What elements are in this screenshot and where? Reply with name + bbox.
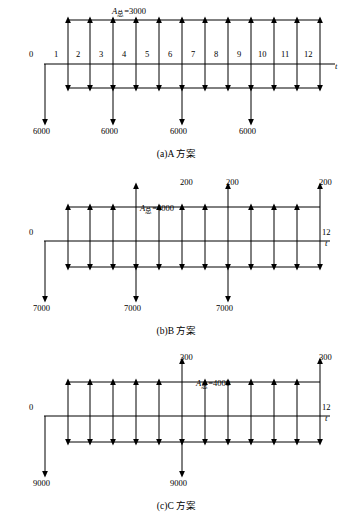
panel-a-tick-7: 7 <box>191 50 195 59</box>
panel-b-tick-0: 0 <box>29 228 33 237</box>
panel-a-tick-8: 8 <box>214 50 218 59</box>
panel-c-small-inflow-1: 300 <box>319 352 332 362</box>
panel-c-outflow-1: 9000 <box>170 478 187 488</box>
panel-a-tick-1: 1 <box>54 50 58 59</box>
panel-a-tick-9: 9 <box>237 50 241 59</box>
panel-a-tick-12: 12 <box>304 50 313 59</box>
panel-a-tick-5: 5 <box>145 50 149 59</box>
cash-flow-diagram-page: A总=3000 0 1 2 3 4 5 6 7 8 9 10 11 12 t 6… <box>0 0 353 523</box>
panel-a-outflow-2: 6000 <box>170 126 187 136</box>
panel-a-caption: (a)A 方案 <box>0 146 353 160</box>
panel-b-outflow-2: 7000 <box>216 303 233 313</box>
panel-b: A总=4000 200 200 200 0 12 t 7000 7000 700… <box>0 175 353 350</box>
panel-c-caption: (c)C 方案 <box>0 498 353 512</box>
panel-b-small-inflow-0: 200 <box>180 177 193 187</box>
panel-a-total-label: A总=3000 <box>112 6 146 18</box>
panel-a-tick-4: 4 <box>122 50 126 59</box>
panel-a-tick-6: 6 <box>168 50 172 59</box>
panel-c-axis-label: t <box>325 414 327 423</box>
panel-a-outflow-0: 6000 <box>33 126 50 136</box>
panel-a-outflow-3: 6000 <box>239 126 256 136</box>
panel-b-tick-12: 12 <box>322 228 331 237</box>
panel-a-tick-10: 10 <box>258 50 267 59</box>
panel-b-small-inflow-1: 200 <box>226 177 239 187</box>
panel-b-outflow-0: 7000 <box>33 303 50 313</box>
panel-c-total-label: A总=4000 <box>196 378 230 390</box>
panel-a-tick-0: 0 <box>29 50 33 59</box>
panel-c-tick-0: 0 <box>29 403 33 412</box>
panel-c-tick-12: 12 <box>322 403 331 412</box>
panel-b-outflow-1: 7000 <box>124 303 141 313</box>
panel-b-small-inflow-2: 200 <box>319 177 332 187</box>
panel-c-outflow-0: 9000 <box>33 478 50 488</box>
panel-a-tick-3: 3 <box>99 50 103 59</box>
panel-c-small-inflow-0: 300 <box>180 352 193 362</box>
panel-b-caption: (b)B 方案 <box>0 323 353 337</box>
panel-a-tick-11: 11 <box>281 50 289 59</box>
panel-b-total-label: A总=4000 <box>140 203 174 215</box>
panel-a-tick-2: 2 <box>76 50 80 59</box>
panel-a-outflow-1: 6000 <box>101 126 118 136</box>
panel-b-axis-label: t <box>325 239 327 248</box>
panel-c: A总=4000 300 300 0 12 t 9000 9000 (c)C 方案 <box>0 350 353 523</box>
panel-a-axis-label: t <box>335 62 337 71</box>
panel-a: A总=3000 0 1 2 3 4 5 6 7 8 9 10 11 12 t 6… <box>0 0 353 175</box>
